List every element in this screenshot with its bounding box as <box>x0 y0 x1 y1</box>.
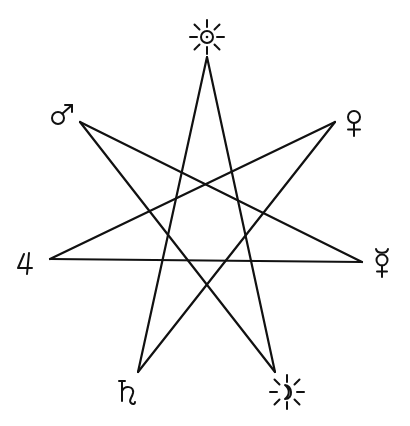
mercury-icon <box>376 249 388 277</box>
edge-venus-saturn <box>138 122 335 372</box>
mars-icon <box>52 105 72 124</box>
sun-icon <box>190 20 224 54</box>
edge-sun-saturn <box>138 57 207 372</box>
edge-mars-moon <box>80 122 275 372</box>
edge-jupiter-mercury <box>50 259 362 262</box>
heptagram-star <box>50 57 362 372</box>
moon-icon <box>270 375 304 409</box>
jupiter-icon <box>18 253 32 274</box>
heptagram-diagram <box>0 0 410 426</box>
venus-icon <box>348 111 360 136</box>
edge-venus-jupiter <box>50 122 335 259</box>
saturn-icon <box>119 381 135 404</box>
